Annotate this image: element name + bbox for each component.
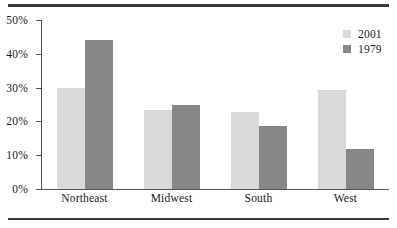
- x-axis-label-northeast: Northeast: [41, 192, 128, 204]
- legend-item-1979: 1979: [343, 42, 382, 56]
- legend-swatch-icon: [343, 30, 351, 38]
- y-axis-tick-mark: [36, 155, 41, 156]
- x-axis-label-midwest: Midwest: [128, 192, 215, 204]
- bar-west-1979: [346, 149, 374, 189]
- legend-label: 2001: [358, 27, 382, 41]
- bar-midwest-2001: [144, 110, 172, 189]
- bar-northeast-1979: [85, 40, 113, 189]
- y-axis-tick-label: 30%: [0, 82, 28, 94]
- y-axis-tick-label: 10%: [0, 149, 28, 161]
- legend-item-2001: 2001: [343, 27, 382, 41]
- top-rule-divider: [8, 4, 389, 7]
- legend-label: 1979: [358, 42, 382, 56]
- y-axis-tick-label: 20%: [0, 115, 28, 127]
- x-axis-baseline: [41, 189, 389, 190]
- chart-legend: 20011979: [343, 27, 382, 57]
- y-axis-tick-mark: [36, 88, 41, 89]
- x-axis-label-west: West: [302, 192, 389, 204]
- bar-midwest-1979: [172, 105, 200, 189]
- bar-south-1979: [259, 126, 287, 189]
- y-axis-tick-mark: [36, 54, 41, 55]
- bar-west-2001: [318, 90, 346, 189]
- bar-northeast-2001: [57, 88, 85, 189]
- bar-south-2001: [231, 112, 259, 189]
- y-axis-tick-mark: [36, 20, 41, 21]
- y-axis-tick-label: 40%: [0, 48, 28, 60]
- y-axis-tick-label: 50%: [0, 14, 28, 26]
- y-axis-tick-mark: [36, 121, 41, 122]
- legend-swatch-icon: [343, 45, 351, 53]
- bar-chart-figure: 0%10%20%30%40%50% NortheastMidwestSouthW…: [0, 0, 397, 228]
- x-axis-label-south: South: [215, 192, 302, 204]
- bottom-rule-divider: [8, 218, 389, 220]
- y-axis-tick-mark: [36, 189, 41, 190]
- y-axis-tick-label: 0%: [0, 183, 28, 195]
